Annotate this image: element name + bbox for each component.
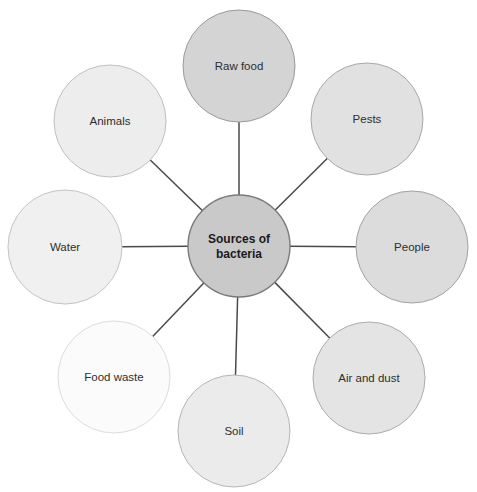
sources-of-bacteria-diagram: Raw foodPestsPeopleAir and dustSoilFood … <box>0 0 477 492</box>
node-animals[interactable]: Animals <box>54 65 166 177</box>
hub-label-line1: Sources of <box>208 232 271 246</box>
node-label-air-and-dust: Air and dust <box>338 372 400 384</box>
spoke-line-food-waste <box>152 282 205 337</box>
node-raw-food[interactable]: Raw food <box>183 10 295 122</box>
node-label-food-waste: Food waste <box>84 371 143 383</box>
hub-label: Sources ofbacteria <box>208 232 271 261</box>
node-water[interactable]: Water <box>8 190 122 304</box>
spoke-line-air-and-dust <box>274 282 330 339</box>
node-label-water: Water <box>50 241 80 253</box>
node-soil[interactable]: Soil <box>178 375 290 487</box>
node-label-animals: Animals <box>90 115 131 127</box>
node-people[interactable]: People <box>356 191 468 303</box>
spoke-line-soil <box>235 296 237 376</box>
node-air-and-dust[interactable]: Air and dust <box>313 322 425 434</box>
hub-group: Sources ofbacteria <box>188 195 290 297</box>
hub-label-line2: bacteria <box>216 247 262 261</box>
node-label-people: People <box>394 241 430 253</box>
node-label-raw-food: Raw food <box>215 60 264 72</box>
node-label-soil: Soil <box>224 425 243 437</box>
spoke-line-pests <box>274 158 327 211</box>
node-pests[interactable]: Pests <box>311 63 423 175</box>
node-label-pests: Pests <box>353 113 382 125</box>
diagram-canvas: Raw foodPestsPeopleAir and dustSoilFood … <box>0 0 477 492</box>
spoke-line-animals <box>149 159 203 211</box>
node-food-waste[interactable]: Food waste <box>58 321 170 433</box>
